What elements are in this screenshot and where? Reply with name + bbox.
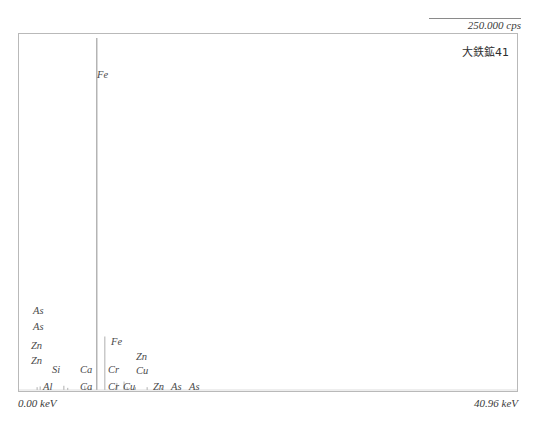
peak-label-ca-12: Ca [80,382,92,393]
axis-label-min: 0.00 keV [18,397,56,409]
spectrum-page: 250.000 cps 大鉄鉱41 FeAsAsZnZnSiCaCrFeZnCu… [0,0,535,425]
peak-label-zn-4: Zn [31,356,42,367]
peak-label-al-11: Al [43,382,52,393]
plot-area: 大鉄鉱41 FeAsAsZnZnSiCaCrFeZnCuAlCaCrCuZnAs… [19,34,517,391]
spectrum-trace [19,34,517,391]
peak-label-cu-10: Cu [136,366,148,377]
peak-label-zn-9: Zn [136,352,147,363]
peak-label-zn-15: Zn [153,382,164,393]
cps-scale-label: 250.000 cps [429,19,521,31]
peak-label-si-5: Si [52,365,60,376]
plot-frame: 大鉄鉱41 FeAsAsZnZnSiCaCrFeZnCuAlCaCrCuZnAs… [18,33,518,392]
peak-label-zn-3: Zn [31,341,42,352]
peak-label-as-16: As [171,382,182,393]
peak-label-as-1: As [33,306,44,317]
peak-label-fe-0: Fe [97,70,108,81]
peak-label-cu-14: Cu [123,382,135,393]
peak-label-cr-7: Cr [108,365,119,376]
axis-label-max: 40.96 keV [474,397,518,409]
peak-label-cr-13: Cr [108,382,119,393]
peak-label-ca-6: Ca [80,365,92,376]
peak-label-as-2: As [33,322,44,333]
peak-label-as-17: As [189,382,200,393]
peak-label-fe-8: Fe [111,337,122,348]
